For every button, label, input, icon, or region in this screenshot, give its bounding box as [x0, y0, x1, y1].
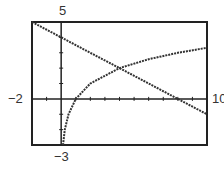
graph-window — [0, 0, 224, 171]
graph-frame — [32, 22, 207, 145]
